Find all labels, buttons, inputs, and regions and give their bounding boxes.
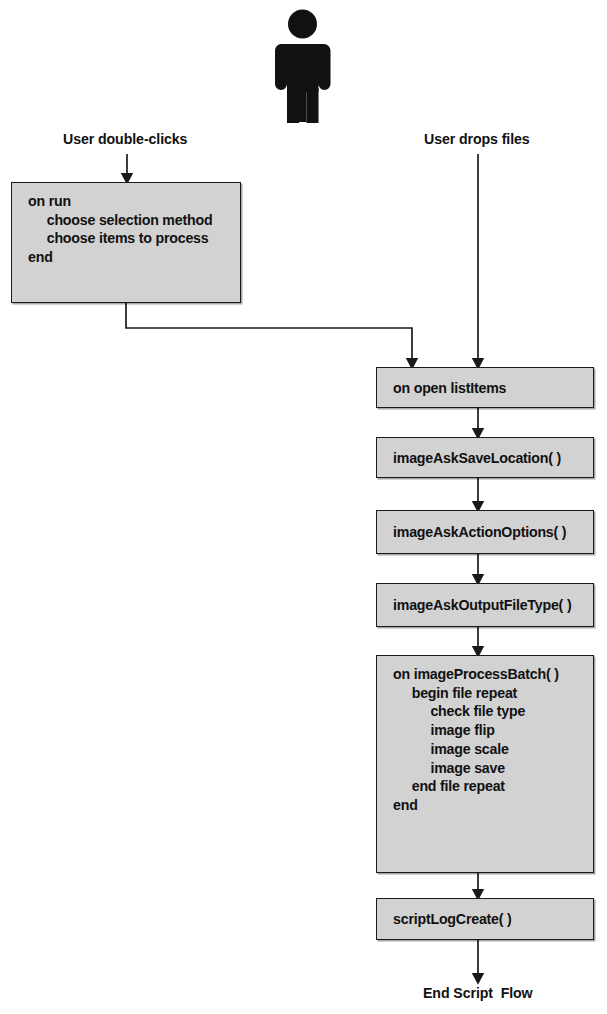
process-box-imageasksavelocation[interactable]: imageAskSaveLocation( ) <box>376 437 594 478</box>
process-box-on-run-code: on run choose selection method choose it… <box>28 192 212 267</box>
person-icon <box>268 8 338 124</box>
process-box-imageaskactionoptions[interactable]: imageAskActionOptions( ) <box>376 510 594 554</box>
process-box-on-run[interactable]: on run choose selection method choose it… <box>11 182 241 303</box>
process-box-imageprocessbatch-code: on imageProcessBatch( ) begin file repea… <box>393 665 559 815</box>
process-box-imageaskoutputfiletype[interactable]: imageAskOutputFileType( ) <box>376 583 594 627</box>
process-box-imageaskactionoptions-code: imageAskActionOptions( ) <box>393 523 566 542</box>
process-box-on-open-listitems[interactable]: on open listItems <box>376 367 594 408</box>
process-box-scriptlogcreate[interactable]: scriptLogCreate( ) <box>376 898 594 940</box>
script-flow-diagram: User double-clicks User drops files on r… <box>0 0 607 1014</box>
label-user-double-clicks: User double-clicks <box>63 131 187 147</box>
process-box-imageprocessbatch[interactable]: on imageProcessBatch( ) begin file repea… <box>376 655 594 873</box>
label-user-drops-files: User drops files <box>424 131 530 147</box>
process-box-on-open-listitems-code: on open listItems <box>393 378 506 397</box>
connector-onrun-to-onopen <box>126 303 412 363</box>
process-box-imageasksavelocation-code: imageAskSaveLocation( ) <box>393 448 561 467</box>
process-box-scriptlogcreate-code: scriptLogCreate( ) <box>393 910 512 929</box>
label-end-script-flow: End Script Flow <box>423 985 533 1001</box>
process-box-imageaskoutputfiletype-code: imageAskOutputFileType( ) <box>393 596 571 615</box>
